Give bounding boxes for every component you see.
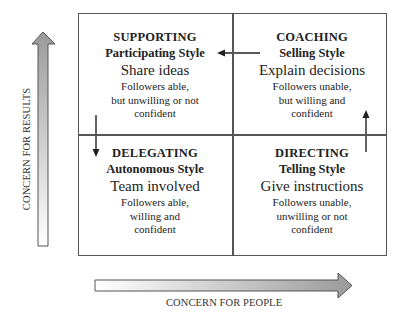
quadrant-description-line: confident (237, 223, 387, 236)
quadrant-description-line: confident (237, 107, 387, 120)
quadrant-directing: DIRECTING Telling Style Give instruction… (237, 146, 387, 236)
quadrant-delegating: DELEGATING Autonomous Style Team involve… (80, 146, 230, 236)
quadrant-style: Telling Style (237, 161, 387, 177)
quadrant-description-line: confident (80, 107, 230, 120)
quadrant-action: Explain decisions (237, 61, 387, 79)
quadrant-description-line: but unwilling or not (80, 94, 230, 107)
y-axis-label: CONCERN FOR RESULTS (21, 88, 32, 210)
quadrant-style: Selling Style (237, 45, 387, 61)
quadrant-style: Autonomous Style (80, 161, 230, 177)
quadrant-description-line: unwilling or not (237, 210, 387, 223)
quadrant-title: DELEGATING (80, 146, 230, 161)
quadrant-description-line: but willing and (237, 94, 387, 107)
quadrant-description-line: willing and (80, 210, 230, 223)
quadrant-action: Team involved (80, 177, 230, 195)
quadrant-description-line: Followers able, (80, 80, 230, 93)
quadrant-description-line: Followers unable, (237, 196, 387, 209)
quadrant-supporting: SUPPORTING Participating Style Share ide… (80, 30, 230, 120)
quadrant-style: Participating Style (80, 45, 230, 61)
quadrant-description-line: confident (80, 223, 230, 236)
x-axis-arrow-icon (95, 273, 352, 298)
quadrant-coaching: COACHING Selling Style Explain decisions… (237, 30, 387, 120)
matrix-horizontal-divider (78, 134, 387, 136)
quadrant-title: SUPPORTING (80, 30, 230, 45)
quadrant-title: COACHING (237, 30, 387, 45)
x-axis-label: CONCERN FOR PEOPLE (166, 297, 282, 308)
y-axis-arrow-icon (32, 32, 55, 246)
quadrant-action: Give instructions (237, 177, 387, 195)
quadrant-title: DIRECTING (237, 146, 387, 161)
quadrant-action: Share ideas (80, 61, 230, 79)
quadrant-description-line: Followers able, (80, 196, 230, 209)
quadrant-description-line: Followers unable, (237, 80, 387, 93)
